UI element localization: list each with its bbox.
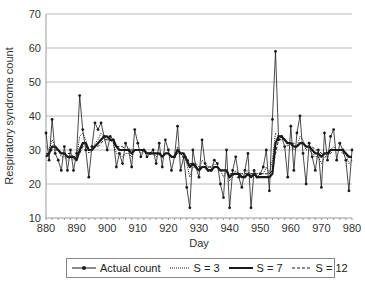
data-point-marker bbox=[152, 149, 155, 152]
dotted-line-icon bbox=[169, 264, 191, 272]
data-point-marker bbox=[302, 152, 305, 155]
data-point-marker bbox=[139, 155, 142, 158]
data-point-marker bbox=[222, 196, 225, 199]
data-point-marker bbox=[283, 145, 286, 148]
x-tick-label: 900 bbox=[98, 222, 116, 234]
data-point-marker bbox=[72, 169, 75, 172]
data-point-marker bbox=[332, 128, 335, 131]
data-point-marker bbox=[149, 152, 152, 155]
data-point-marker bbox=[173, 155, 176, 158]
data-point-marker bbox=[112, 138, 115, 141]
series-line-s-7 bbox=[46, 136, 352, 177]
data-point-marker bbox=[320, 186, 323, 189]
data-point-marker bbox=[204, 162, 207, 165]
data-point-marker bbox=[296, 132, 299, 135]
x-tick-label: 930 bbox=[190, 222, 208, 234]
data-point-marker bbox=[240, 186, 243, 189]
data-point-marker bbox=[167, 149, 170, 152]
data-point-marker bbox=[121, 162, 124, 165]
legend-item-s3: S = 3 bbox=[169, 262, 220, 274]
data-point-marker bbox=[185, 186, 188, 189]
data-point-marker bbox=[45, 132, 48, 135]
data-point-marker bbox=[66, 169, 69, 172]
legend-item-s12: S = 12 bbox=[291, 262, 348, 274]
data-point-marker bbox=[274, 50, 277, 53]
data-point-marker bbox=[231, 169, 234, 172]
y-tick-label: 20 bbox=[29, 178, 41, 190]
data-point-marker bbox=[94, 121, 97, 124]
data-point-marker bbox=[179, 169, 182, 172]
legend-item-actual-count: Actual count bbox=[71, 262, 161, 274]
data-point-marker bbox=[97, 128, 100, 131]
data-point-marker bbox=[265, 149, 268, 152]
data-point-marker bbox=[63, 145, 66, 148]
line-with-dot-marker-icon bbox=[71, 264, 97, 272]
data-point-marker bbox=[234, 155, 237, 158]
data-point-marker bbox=[182, 155, 185, 158]
x-tick-label: 950 bbox=[251, 222, 269, 234]
data-point-marker bbox=[329, 135, 332, 138]
data-point-marker bbox=[48, 159, 51, 162]
y-tick-label: 40 bbox=[29, 110, 41, 122]
legend-label: S = 12 bbox=[316, 262, 348, 274]
data-point-marker bbox=[176, 125, 179, 128]
data-point-marker bbox=[280, 135, 283, 138]
data-point-marker bbox=[106, 149, 109, 152]
data-point-marker bbox=[161, 166, 164, 169]
data-point-marker bbox=[344, 159, 347, 162]
y-tick-label: 30 bbox=[29, 144, 41, 156]
data-point-marker bbox=[207, 169, 210, 172]
data-point-marker bbox=[268, 189, 271, 192]
data-point-marker bbox=[286, 176, 289, 179]
data-point-marker bbox=[54, 152, 57, 155]
data-point-marker bbox=[158, 142, 161, 145]
y-tick-label: 50 bbox=[29, 76, 41, 88]
thick-solid-line-icon bbox=[228, 264, 254, 272]
data-point-marker bbox=[256, 176, 259, 179]
data-point-marker bbox=[250, 206, 253, 209]
x-tick-label: 890 bbox=[67, 222, 85, 234]
x-tick-label: 940 bbox=[220, 222, 238, 234]
data-point-marker bbox=[317, 149, 320, 152]
data-point-marker bbox=[191, 149, 194, 152]
data-point-marker bbox=[305, 183, 308, 186]
data-point-marker bbox=[225, 149, 228, 152]
data-point-marker bbox=[130, 166, 133, 169]
x-tick-label: 910 bbox=[129, 222, 147, 234]
data-series bbox=[45, 50, 354, 209]
data-point-marker bbox=[277, 138, 280, 141]
data-point-marker bbox=[210, 169, 213, 172]
data-point-marker bbox=[271, 118, 274, 121]
data-point-marker bbox=[146, 155, 149, 158]
data-point-marker bbox=[103, 135, 106, 138]
legend: Actual count S = 3 S = 7 S = 12 bbox=[66, 258, 335, 278]
data-point-marker bbox=[244, 169, 247, 172]
data-point-marker bbox=[335, 159, 338, 162]
data-point-marker bbox=[213, 159, 216, 162]
data-point-marker bbox=[323, 132, 326, 135]
data-point-marker bbox=[155, 162, 158, 165]
x-axis-title: Day bbox=[189, 237, 209, 249]
data-point-marker bbox=[326, 159, 329, 162]
dashed-line-icon bbox=[291, 264, 313, 272]
data-point-marker bbox=[75, 152, 78, 155]
data-point-marker bbox=[118, 152, 121, 155]
x-tick-label: 980 bbox=[343, 222, 361, 234]
data-point-marker bbox=[219, 183, 222, 186]
data-point-marker bbox=[292, 169, 295, 172]
y-tick-label: 70 bbox=[29, 8, 41, 20]
data-point-marker bbox=[188, 206, 191, 209]
legend-label: S = 3 bbox=[194, 262, 220, 274]
data-point-marker bbox=[311, 155, 314, 158]
data-point-marker bbox=[143, 149, 146, 152]
legend-label: Actual count bbox=[100, 262, 161, 274]
data-point-marker bbox=[170, 169, 173, 172]
data-point-marker bbox=[195, 166, 198, 169]
x-tick-label: 960 bbox=[282, 222, 300, 234]
x-tick-label: 920 bbox=[159, 222, 177, 234]
x-tick-label: 880 bbox=[37, 222, 55, 234]
y-axis-title: Respiratory syndrome count bbox=[3, 47, 15, 185]
data-point-marker bbox=[351, 149, 354, 152]
data-point-marker bbox=[115, 166, 118, 169]
x-tick-label: 970 bbox=[312, 222, 330, 234]
